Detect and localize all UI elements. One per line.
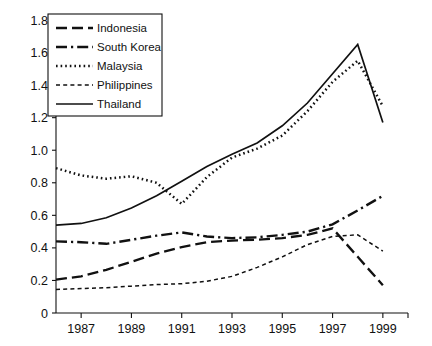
chart-legend: IndonesiaSouth KoreaMalaysiaPhilippinesT… (48, 14, 162, 116)
y-tick-label: 1.0 (31, 144, 48, 158)
x-tick-label: 1995 (268, 322, 296, 336)
y-tick-label: 1.4 (31, 79, 48, 93)
x-axis: 1987198919911993199519971999 (56, 313, 408, 336)
y-tick-label: 0.4 (31, 241, 48, 255)
y-tick-label: 0.2 (31, 274, 48, 288)
y-tick-label: 0.6 (31, 209, 48, 223)
legend-label-malaysia: Malaysia (97, 60, 143, 72)
line-chart: 00.20.40.60.81.01.21.41.61.8 19871989199… (0, 0, 432, 346)
y-tick-label: 0.8 (31, 176, 48, 190)
y-tick-label: 0 (41, 307, 48, 321)
legend-label-thailand: Thailand (97, 98, 141, 110)
x-tick-label: 1997 (319, 322, 347, 336)
y-tick-label: 1.2 (31, 111, 48, 125)
y-tick-label: 1.8 (31, 14, 48, 28)
legend-label-indonesia: Indonesia (97, 22, 147, 34)
y-tick-label: 1.6 (31, 46, 48, 60)
legend-label-south-korea: South Korea (97, 41, 162, 53)
x-tick-label: 1999 (369, 322, 397, 336)
series-line-south-korea (56, 196, 383, 244)
x-tick-label: 1987 (67, 322, 95, 336)
chart-canvas: 00.20.40.60.81.01.21.41.61.8 19871989199… (0, 0, 432, 346)
x-tick-label: 1991 (168, 322, 196, 336)
x-tick-label: 1989 (118, 322, 146, 336)
legend-label-philippines: Philippines (97, 79, 153, 91)
x-tick-label: 1993 (218, 322, 246, 336)
